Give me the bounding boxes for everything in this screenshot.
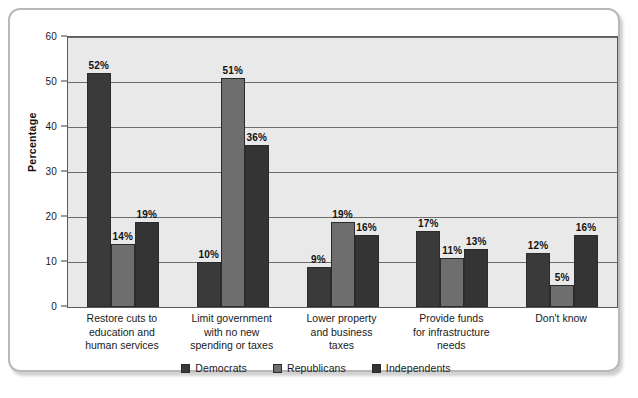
- legend-item[interactable]: Republicans: [273, 362, 346, 374]
- bar[interactable]: [416, 231, 440, 308]
- bar[interactable]: [574, 235, 598, 307]
- y-tick-label: 50: [45, 76, 57, 87]
- bar-group: 52%14%19%: [87, 37, 159, 307]
- y-tick-label: 30: [45, 166, 57, 177]
- bar[interactable]: [87, 73, 111, 307]
- bar[interactable]: [464, 249, 488, 308]
- y-tick-label: 60: [45, 31, 57, 42]
- y-tick-label: 20: [45, 211, 57, 222]
- legend-swatch-icon: [181, 364, 190, 373]
- bar-value-label: 14%: [113, 231, 134, 242]
- bar-value-label: 16%: [356, 222, 377, 233]
- bar-group: 9%19%16%: [307, 37, 379, 307]
- bar-value-label: 36%: [246, 132, 267, 143]
- legend-swatch-icon: [372, 364, 381, 373]
- bar[interactable]: [221, 78, 245, 308]
- bar[interactable]: [135, 222, 159, 308]
- bar-value-label: 19%: [332, 209, 353, 220]
- bar-value-label: 52%: [89, 60, 110, 71]
- bar-group: 10%51%36%: [197, 37, 269, 307]
- bar-value-label: 51%: [222, 65, 243, 76]
- x-axis-label: Don't know: [535, 312, 587, 326]
- x-axis-labels: Restore cuts to education and human serv…: [67, 312, 618, 358]
- y-axis: 0102030405060: [10, 36, 67, 308]
- bar[interactable]: [355, 235, 379, 307]
- bar-value-label: 10%: [198, 249, 219, 260]
- bar-group: 17%11%13%: [416, 37, 488, 307]
- legend-label: Democrats: [195, 362, 247, 374]
- bar-value-label: 11%: [442, 245, 462, 256]
- x-axis-label: Lower property and business taxes: [306, 312, 376, 353]
- bar[interactable]: [550, 285, 574, 308]
- y-tick-label: 0: [51, 301, 57, 312]
- y-tick-label: 10: [45, 256, 57, 267]
- bar[interactable]: [526, 253, 550, 307]
- legend-swatch-icon: [273, 364, 282, 373]
- legend-label: Republicans: [287, 362, 346, 374]
- legend-item[interactable]: Democrats: [181, 362, 247, 374]
- bar[interactable]: [307, 267, 331, 308]
- legend-item[interactable]: Independents: [372, 362, 451, 374]
- bar[interactable]: [331, 222, 355, 308]
- plot-area: 52%14%19%10%51%36%9%19%16%17%11%13%12%5%…: [67, 36, 618, 308]
- bar[interactable]: [245, 145, 269, 307]
- bar-value-label: 16%: [576, 222, 597, 233]
- x-axis-label: Provide funds for infrastructure needs: [413, 312, 489, 353]
- x-axis-label: Limit government with no new spending or…: [190, 312, 273, 353]
- bar[interactable]: [197, 262, 221, 307]
- figure-frame: Percentage 0102030405060 52%14%19%10%51%…: [8, 8, 620, 372]
- y-tick-label: 40: [45, 121, 57, 132]
- bar-value-label: 9%: [311, 254, 326, 265]
- bar-value-label: 13%: [466, 236, 487, 247]
- legend-label: Independents: [386, 362, 451, 374]
- bar-value-label: 12%: [528, 240, 549, 251]
- bar-value-label: 5%: [555, 272, 570, 283]
- chart-legend: DemocratsRepublicansIndependents: [10, 362, 622, 374]
- bar[interactable]: [111, 244, 135, 307]
- bar-value-label: 19%: [137, 209, 158, 220]
- bar-value-label: 17%: [418, 218, 439, 229]
- bar[interactable]: [440, 258, 464, 308]
- x-axis-label: Restore cuts to education and human serv…: [85, 312, 159, 353]
- bar-group: 12%5%16%: [526, 37, 598, 307]
